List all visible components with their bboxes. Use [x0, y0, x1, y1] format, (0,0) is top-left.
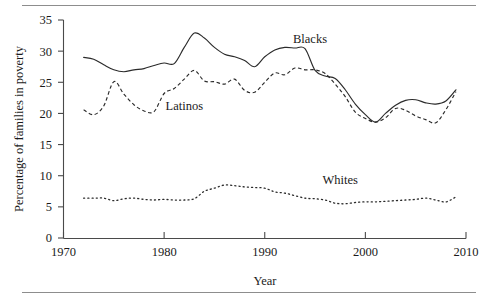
- series-annotation-group: BlacksLatinosWhites: [166, 32, 359, 187]
- x-tick-label: 1990: [252, 245, 277, 259]
- y-tick-label: 35: [40, 13, 53, 27]
- y-axis: 05101520253035: [40, 13, 64, 245]
- x-tick-label: 2010: [454, 245, 479, 259]
- y-tick-label: 0: [46, 231, 52, 245]
- series-group: [84, 33, 456, 204]
- x-tick-label: 1980: [152, 245, 177, 259]
- x-axis: 19701980199020002010: [51, 232, 479, 259]
- y-tick-label: 30: [40, 45, 53, 59]
- y-tick-label: 20: [40, 107, 53, 121]
- x-axis-title: Year: [253, 274, 277, 288]
- y-tick-label: 5: [46, 200, 52, 214]
- figure-container: 05101520253035 19701980199020002010 Perc…: [0, 0, 498, 302]
- poverty-line-chart: 05101520253035 19701980199020002010 Perc…: [0, 0, 498, 302]
- x-tick-group: [64, 232, 467, 239]
- y-tick-label: 10: [40, 169, 53, 183]
- x-tick-label-group: 19701980199020002010: [51, 245, 479, 259]
- x-tick-label: 1970: [51, 245, 76, 259]
- y-tick-group: [58, 20, 64, 238]
- y-tick-label-group: 05101520253035: [40, 13, 53, 245]
- series-line-whites: [84, 185, 456, 204]
- y-axis-title: Percentage of families in poverty: [12, 45, 26, 212]
- series-label-latinos: Latinos: [166, 99, 204, 113]
- series-label-whites: Whites: [323, 173, 359, 187]
- series-label-blacks: Blacks: [293, 32, 327, 46]
- x-tick-label: 2000: [353, 245, 378, 259]
- series-line-latinos: [84, 68, 456, 123]
- y-tick-label: 25: [40, 76, 53, 90]
- y-tick-label: 15: [40, 138, 53, 152]
